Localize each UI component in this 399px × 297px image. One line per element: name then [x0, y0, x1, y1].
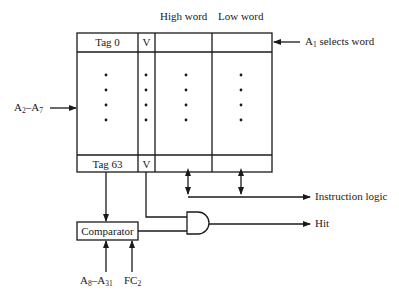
function-code-label: FC2 — [124, 275, 141, 288]
word-select-label: A1 selects word — [305, 36, 374, 49]
valid-top-cell: V — [138, 37, 155, 48]
hit-label: Hit — [315, 218, 329, 229]
valid-to-gate-line — [146, 172, 187, 217]
high-word-header: High word — [160, 11, 207, 22]
tag-address-label: A8–A31 — [80, 275, 113, 288]
ellipsis-dots — [105, 74, 243, 122]
index-address-label: A2–A7 — [14, 102, 43, 115]
and-gate-icon — [187, 212, 209, 234]
low-word-header: Low word — [218, 11, 264, 22]
instruction-logic-label: Instruction logic — [315, 191, 387, 202]
cache-table-outline — [77, 33, 272, 172]
tag-0-cell: Tag 0 — [77, 37, 138, 48]
valid-bottom-cell: V — [138, 159, 155, 170]
comparator-label: Comparator — [77, 226, 138, 237]
tag-63-cell: Tag 63 — [77, 159, 138, 170]
